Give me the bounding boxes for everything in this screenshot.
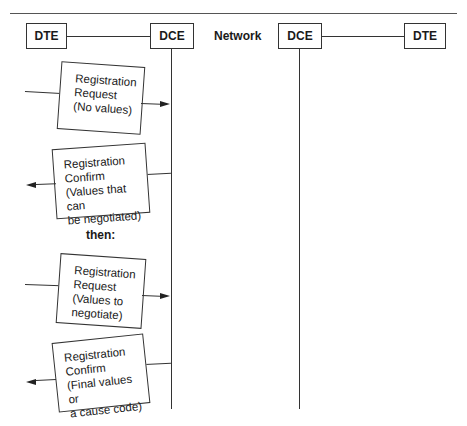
message-1-out-stem	[141, 103, 161, 105]
message-2-out-stem	[36, 183, 56, 185]
message-1-box: Registration Request (No values)	[57, 61, 146, 135]
left-dte-node: DTE	[26, 23, 67, 49]
message-3-arrow-icon	[160, 293, 170, 299]
left-dce-node: DCE	[150, 23, 194, 49]
left-dte-dce-link	[67, 36, 150, 37]
message-2-arrow-icon	[26, 182, 36, 188]
left-dce-label: DCE	[159, 29, 184, 43]
message-1-arrow-icon	[160, 101, 170, 107]
message-3-out-stem	[142, 295, 160, 297]
then-separator: then:	[86, 228, 115, 242]
right-dce-node: DCE	[278, 23, 322, 49]
top-rule	[10, 13, 457, 14]
message-3-box: Registration Request (Values to negotiat…	[56, 253, 147, 329]
message-2-box: Registration Confirm (Values that can be…	[52, 143, 151, 219]
right-dce-dte-link	[322, 36, 404, 37]
message-4-arrow-icon	[26, 379, 36, 385]
right-dte-node: DTE	[404, 23, 446, 49]
right-dce-label: DCE	[287, 29, 312, 43]
message-4-box: Registration Confirm (Final values or a …	[52, 333, 151, 412]
message-1-line-3: (No values)	[73, 99, 136, 117]
left-dte-label: DTE	[35, 29, 59, 43]
message-4-in-stem	[145, 363, 171, 365]
right-dte-label: DTE	[413, 29, 437, 43]
network-label: Network	[214, 29, 261, 43]
message-2-in-stem	[147, 173, 171, 175]
left-dce-lifeline	[171, 49, 172, 409]
right-dce-lifeline	[299, 49, 300, 409]
message-4-out-stem	[36, 379, 56, 381]
message-3-in-stem	[25, 284, 61, 286]
message-1-in-stem	[25, 91, 61, 94]
